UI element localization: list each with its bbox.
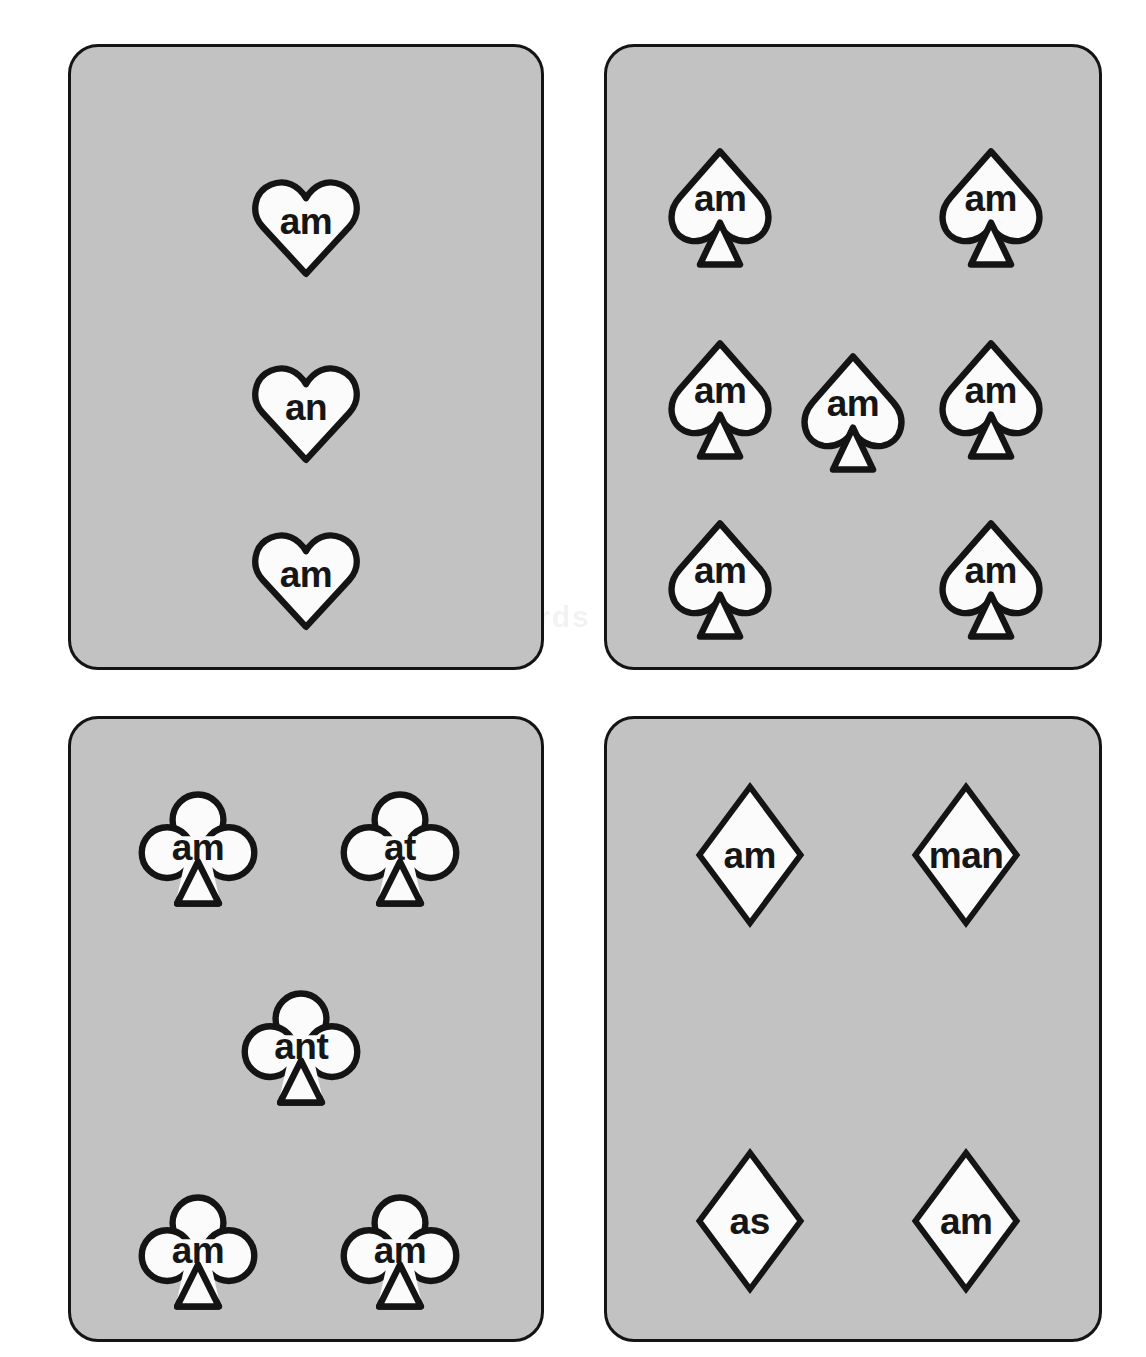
club-pip: am — [341, 1192, 459, 1312]
club-pip: ant — [242, 988, 360, 1108]
spade-pip: am — [936, 146, 1046, 270]
heart-pip: am — [252, 175, 360, 279]
spade-pip: am — [798, 351, 908, 475]
heart-pip: am — [252, 528, 360, 632]
club-pip: at — [341, 789, 459, 909]
spade-pip: am — [936, 338, 1046, 462]
diamond-icon — [907, 1147, 1025, 1295]
spade-pip: am — [936, 518, 1046, 642]
spade-icon — [798, 351, 908, 475]
diamond-pip: as — [691, 1147, 809, 1295]
club-icon — [242, 988, 360, 1108]
diamond-icon — [691, 1147, 809, 1295]
spade-icon — [665, 518, 775, 642]
heart-pip: an — [252, 361, 360, 465]
diamond-pip: am — [691, 781, 809, 929]
club-icon — [341, 1192, 459, 1312]
heart-icon — [252, 175, 360, 279]
spade-icon — [936, 338, 1046, 462]
diamond-pip: am — [907, 1147, 1025, 1295]
spade-pip: am — [665, 518, 775, 642]
diamond-pip: man — [907, 781, 1025, 929]
club-pip: am — [139, 1192, 257, 1312]
spade-icon — [665, 338, 775, 462]
spade-icon — [936, 518, 1046, 642]
spade-icon — [665, 146, 775, 270]
spade-icon — [936, 146, 1046, 270]
club-icon — [139, 1192, 257, 1312]
spade-pip: am — [665, 338, 775, 462]
heart-icon — [252, 528, 360, 632]
card-spades[interactable]: amamamamamamam — [604, 44, 1102, 670]
club-icon — [139, 789, 257, 909]
card-diamonds[interactable]: ammanasam — [604, 716, 1102, 1342]
club-icon — [341, 789, 459, 909]
club-pip: am — [139, 789, 257, 909]
heart-icon — [252, 361, 360, 465]
diamond-icon — [907, 781, 1025, 929]
card-hearts[interactable]: amanam — [68, 44, 544, 670]
card-clubs[interactable]: amatantamam — [68, 716, 544, 1342]
spade-pip: am — [665, 146, 775, 270]
worksheet-page: Word sight words cards amanam amamamamam… — [0, 0, 1146, 1357]
diamond-icon — [691, 781, 809, 929]
